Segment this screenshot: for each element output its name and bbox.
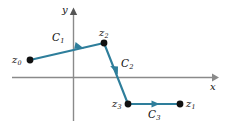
segment-label-c2: C2: [121, 58, 133, 69]
segment-c2-arrowhead: [110, 66, 118, 75]
point-z1-dot: [177, 101, 184, 108]
segment-label-c1: C1: [52, 32, 64, 43]
point-z0-dot: [27, 57, 34, 64]
point-label-z2: z2: [99, 28, 108, 38]
segment-c1-line: [30, 43, 104, 60]
segment-label-c3: C3: [148, 109, 160, 120]
y-axis-arrowhead: [70, 8, 77, 16]
contour-path-figure: y x z0 z2 z3 z1 C1 C2 C3: [0, 0, 227, 128]
x-axis-label: x: [210, 82, 216, 92]
point-label-z0: z0: [12, 55, 21, 65]
segment-c2: [104, 43, 128, 104]
point-label-z1: z1: [186, 99, 195, 109]
segment-c3-arrowhead: [152, 101, 160, 108]
point-label-z3: z3: [112, 99, 121, 109]
segment-c1: [30, 42, 104, 60]
segment-c2-line: [104, 43, 128, 104]
y-axis-label: y: [62, 5, 68, 15]
y-axis: [70, 8, 77, 122]
point-z2-dot: [101, 40, 108, 47]
segment-c1-arrowhead: [74, 42, 84, 49]
segment-c3: [128, 101, 180, 108]
point-z3-dot: [125, 101, 132, 108]
